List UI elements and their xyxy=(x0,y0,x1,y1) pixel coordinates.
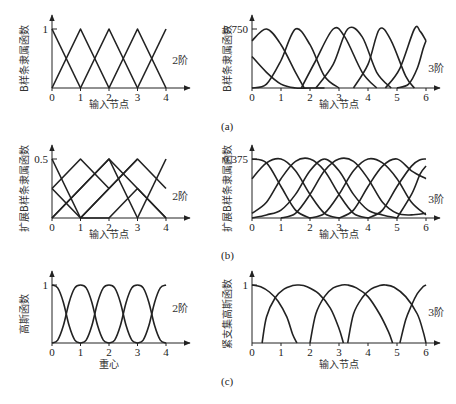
membership-curve-e3 xyxy=(52,159,138,218)
y-axis-label: B样条隶属函数 xyxy=(18,25,30,92)
x-axis-label: 输入节点 xyxy=(319,228,359,240)
panel-b-right: 0.3750123456扩展B样条隶属函数输入节点3阶 xyxy=(221,145,444,240)
panel-a-left: 101234B样条隶属函数输入节点2阶 xyxy=(18,15,190,110)
x-axis-label: 输入节点 xyxy=(89,228,129,240)
x-tick-label: 1 xyxy=(78,346,84,358)
caption-c: (c) xyxy=(221,375,234,388)
y-axis-label: 高斯函数 xyxy=(18,294,30,334)
x-tick-label: 1 xyxy=(78,91,84,103)
membership-curve-h3 xyxy=(348,285,426,343)
membership-curve-c3 xyxy=(301,28,376,88)
order-label: 2阶 xyxy=(172,54,188,66)
x-axis-label: 输入节点 xyxy=(319,358,359,370)
panel-c-right: 10123456紧支集高斯函数输入节点3阶 xyxy=(221,271,444,370)
y-axis-label: 扩展B样条隶属函数 xyxy=(18,145,30,232)
membership-curve-f7 xyxy=(368,159,426,218)
caption-a: (a) xyxy=(221,120,234,133)
x-tick-label: 4 xyxy=(163,346,169,358)
membership-curve-e5 xyxy=(109,189,166,219)
x-axis-label: 输入节点 xyxy=(89,98,129,110)
x-tick-label: 6 xyxy=(423,91,429,103)
membership-curve-h0 xyxy=(252,285,297,343)
x-tick-label: 1 xyxy=(278,221,284,233)
x-tick-label: 3 xyxy=(336,346,342,358)
y-tick-label: 1 xyxy=(43,23,49,35)
x-tick-label: 6 xyxy=(423,221,429,233)
order-label: 3阶 xyxy=(428,193,444,205)
x-tick-label: 0 xyxy=(49,346,55,358)
x-tick-label: 2 xyxy=(307,221,313,233)
x-tick-label: 1 xyxy=(278,91,284,103)
order-label: 2阶 xyxy=(172,190,188,202)
y-tick-label: 1 xyxy=(243,279,249,291)
membership-curve-c2 xyxy=(252,29,339,88)
order-label: 2阶 xyxy=(172,302,188,314)
x-axis-label: 重心 xyxy=(99,358,119,370)
membership-curve-h1 xyxy=(262,285,343,343)
x-tick-label: 4 xyxy=(365,91,371,103)
x-tick-label: 0 xyxy=(249,91,255,103)
x-tick-label: 2 xyxy=(307,346,313,358)
x-tick-label: 3 xyxy=(135,346,141,358)
y-axis-label: B样条隶属函数 xyxy=(221,25,233,92)
x-tick-label: 6 xyxy=(423,346,429,358)
x-tick-label: 5 xyxy=(394,91,400,103)
membership-curve-e7 xyxy=(138,159,167,218)
membership-functions-figure: (a) (b) (c) 101234B样条隶属函数输入节点2阶0.7500123… xyxy=(0,0,456,404)
y-tick-label: 0.5 xyxy=(34,153,48,165)
x-tick-label: 0 xyxy=(49,221,55,233)
membership-curve-e2 xyxy=(52,159,138,218)
y-tick-label: 1 xyxy=(43,279,49,291)
membership-curve-h2 xyxy=(310,285,393,343)
x-tick-label: 0 xyxy=(49,91,55,103)
x-tick-label: 5 xyxy=(394,221,400,233)
x-tick-label: 4 xyxy=(163,221,169,233)
membership-curve-b1 xyxy=(52,29,109,88)
x-tick-label: 3 xyxy=(135,221,141,233)
panel-a-right: 0.7500123456B样条隶属函数输入节点3阶 xyxy=(221,15,444,110)
x-tick-label: 5 xyxy=(394,346,400,358)
membership-curve-f3 xyxy=(252,159,397,218)
x-tick-label: 0 xyxy=(249,221,255,233)
panel-c-left: 101234高斯函数重心2阶 xyxy=(18,271,190,370)
membership-curve-g4 xyxy=(138,285,167,343)
membership-curve-f8 xyxy=(397,166,426,218)
x-tick-label: 0 xyxy=(249,346,255,358)
membership-curve-c1 xyxy=(252,57,325,89)
caption-b: (b) xyxy=(221,249,234,262)
order-label: 3阶 xyxy=(428,306,444,318)
x-tick-label: 4 xyxy=(163,91,169,103)
x-tick-label: 4 xyxy=(365,346,371,358)
x-tick-label: 1 xyxy=(278,346,284,358)
membership-curve-b3 xyxy=(109,29,166,88)
membership-curve-b2 xyxy=(81,29,138,88)
x-tick-label: 2 xyxy=(307,91,313,103)
x-tick-label: 1 xyxy=(78,221,84,233)
x-tick-label: 4 xyxy=(365,221,371,233)
y-axis-label: 扩展B样条隶属函数 xyxy=(221,145,233,232)
x-tick-label: 2 xyxy=(106,346,112,358)
y-axis-label: 紧支集高斯函数 xyxy=(221,279,233,349)
membership-curve-c0 xyxy=(252,29,304,88)
x-tick-label: 3 xyxy=(135,91,141,103)
x-axis-label: 输入节点 xyxy=(319,98,359,110)
membership-curve-e1 xyxy=(52,159,109,189)
order-label: 3阶 xyxy=(428,62,444,74)
membership-curve-c6 xyxy=(385,26,426,88)
panel-b-left: 0.501234扩展B样条隶属函数输入节点2阶 xyxy=(18,145,190,240)
